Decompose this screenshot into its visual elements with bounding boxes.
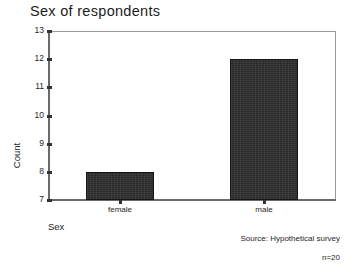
bar-male (230, 59, 298, 200)
x-tick-female (119, 200, 122, 204)
y-axis-title: Count (11, 126, 22, 186)
source-note: Source: Hypothetical survey (240, 234, 340, 243)
x-tick-label-male: male (219, 205, 309, 214)
y-tick-10 (47, 115, 52, 118)
x-tick-label-female: female (75, 205, 165, 214)
x-axis-title: Sex (48, 221, 64, 232)
y-tick-label-12: 12 (14, 54, 44, 63)
y-tick-label-11: 11 (14, 82, 44, 91)
chart-title: Sex of respondents (30, 3, 160, 19)
y-tick-label-10: 10 (14, 111, 44, 120)
bar-female (86, 172, 154, 200)
y-tick-label-13: 13 (14, 26, 44, 35)
sample-size-note: n=20 (322, 253, 340, 262)
x-tick-male (263, 200, 266, 204)
y-tick-13 (47, 30, 52, 33)
y-tick-label-7: 7 (14, 195, 44, 204)
y-tick-9 (47, 143, 52, 146)
chart-figure: Sex of respondents 13121110987 Count fem… (0, 0, 353, 272)
y-tick-7 (47, 199, 52, 202)
y-tick-8 (47, 171, 52, 174)
y-tick-11 (47, 86, 52, 89)
y-tick-12 (47, 58, 52, 61)
